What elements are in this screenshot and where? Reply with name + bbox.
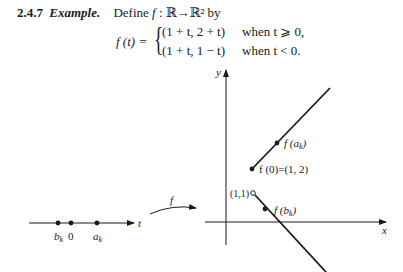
upper-branch-line xyxy=(252,88,330,169)
point-b-k xyxy=(56,221,61,226)
f-b-k-point xyxy=(263,207,268,212)
lower-branch: (1,1) f (bk) xyxy=(230,188,326,272)
label-b: bk xyxy=(54,230,64,244)
point-a-k xyxy=(95,221,100,226)
x-axis-label: x xyxy=(381,224,387,236)
upper-branch: f (ak) f (0)=(1, 2) xyxy=(250,88,330,176)
f-b-k-label: f (bk) xyxy=(274,204,297,218)
curved-arrow-icon xyxy=(150,207,196,214)
point-zero xyxy=(69,221,74,226)
domain-t-line: t bk 0 ak xyxy=(29,217,142,244)
f-a-k-point xyxy=(275,141,280,146)
y-axis-label: y xyxy=(215,66,221,78)
f-zero-point xyxy=(250,167,255,172)
f-zero-label: f (0)=(1, 2) xyxy=(259,163,309,176)
open-point-label: (1,1) xyxy=(230,188,249,200)
lower-branch-line xyxy=(255,195,326,272)
label-a: ak xyxy=(93,230,103,244)
mapping-arrow: f xyxy=(150,194,196,214)
mapping-figure: t bk 0 ak f y x f (ak) f (0)=(1, 2) (1,1… xyxy=(0,0,403,272)
open-point-1-1 xyxy=(251,191,256,196)
t-axis-label: t xyxy=(138,217,142,229)
f-a-k-label: f (ak) xyxy=(284,137,307,151)
map-label: f xyxy=(170,194,175,206)
label-zero: 0 xyxy=(68,230,74,242)
plane-axes: y x xyxy=(205,66,387,245)
